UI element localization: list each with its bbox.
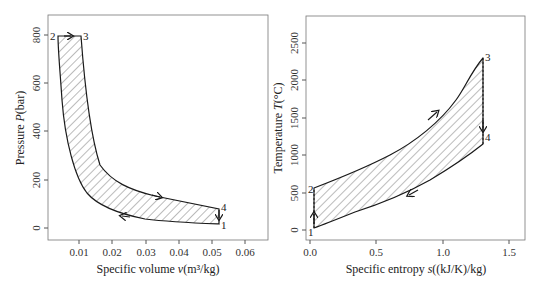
- pv-ytick: 600: [30, 74, 42, 91]
- ts-ytick: 2000: [288, 69, 300, 92]
- pv-point-2-label: 2: [50, 30, 56, 42]
- ts-point-1-label: 1: [308, 226, 314, 238]
- pv-point-3-label: 3: [83, 30, 89, 42]
- pv-cycle-area: [58, 36, 219, 224]
- ts-y-axis: 0 500 1000 1500 2000 2500: [288, 32, 306, 233]
- pv-ytick: 400: [30, 122, 42, 139]
- ts-x-title: Specific entropy s((kJ/K)/kg): [346, 262, 487, 276]
- ts-ytick: 500: [288, 184, 300, 201]
- figure: 0 200 400 600 800 0.01 0.02 0.03 0.04 0.…: [0, 0, 540, 293]
- pv-chart: 0 200 400 600 800 0.01 0.02 0.03 0.04 0.…: [13, 15, 268, 276]
- pv-ytick: 200: [30, 171, 42, 188]
- pv-y-axis: 0 200 400 600 800: [30, 26, 48, 231]
- pv-ytick: 0: [30, 225, 42, 231]
- ts-ytick: 1000: [288, 144, 300, 167]
- ts-ytick: 0: [288, 227, 300, 233]
- ts-ytick: 2500: [288, 32, 300, 55]
- ts-point-4-label: 4: [485, 131, 491, 143]
- pv-xtick: 0.06: [235, 246, 255, 258]
- ts-y-title: Temperature T(°C): [271, 83, 285, 174]
- ts-xtick: 0.5: [369, 246, 383, 258]
- pv-xtick: 0.05: [202, 246, 222, 258]
- pv-point-4-label: 4: [221, 201, 227, 213]
- ts-ytick: 1500: [288, 107, 300, 130]
- ts-point-3-label: 3: [485, 51, 491, 63]
- pv-xtick: 0.04: [169, 246, 189, 258]
- pv-x-title: Specific volume v(m³/kg): [97, 262, 220, 276]
- ts-xtick: 1.0: [436, 246, 450, 258]
- pv-arrow-1-2: [122, 216, 130, 217]
- ts-point-2-label: 2: [308, 183, 314, 195]
- ts-cycle-area: [314, 58, 483, 228]
- ts-xtick: 1.5: [502, 246, 516, 258]
- ts-x-axis: 0.0 0.5 1.0 1.5: [303, 240, 516, 258]
- pv-point-1-label: 1: [221, 219, 227, 231]
- pv-xtick: 0.02: [102, 246, 121, 258]
- pv-xtick: 0.03: [136, 246, 156, 258]
- ts-chart: 0 500 1000 1500 2000 2500 0.0 0.5 1.0 1.…: [271, 16, 525, 276]
- pv-x-axis: 0.01 0.02 0.03 0.04 0.05 0.06: [69, 240, 255, 258]
- pv-y-title: Pressure P(bar): [13, 91, 27, 165]
- ts-xtick: 0.0: [303, 246, 317, 258]
- pv-ytick: 800: [30, 26, 42, 43]
- ts-arrow-2-3: [428, 112, 437, 120]
- pv-xtick: 0.01: [69, 246, 88, 258]
